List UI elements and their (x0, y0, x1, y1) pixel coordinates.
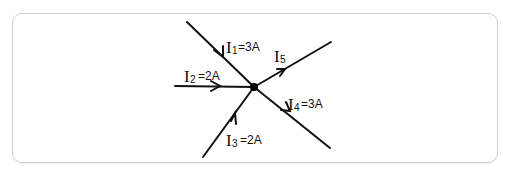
svg-text:=3A: =3A (301, 97, 323, 111)
junction-diagram: I 1 =3A I 2 =2A I 3 =2A I 4 =3A I 5 (0, 0, 511, 174)
svg-text:=2A: =2A (240, 133, 262, 147)
svg-text:2: 2 (190, 74, 196, 85)
svg-text:4: 4 (294, 102, 300, 113)
branch-i2-wire (175, 86, 254, 87)
label-i4: I 4 =3A (288, 95, 323, 114)
svg-text:=2A: =2A (198, 69, 220, 83)
label-i3: I 3 =2A (226, 131, 262, 150)
arrow-i3-icon (231, 113, 236, 124)
svg-text:=3A: =3A (238, 40, 260, 54)
svg-text:3: 3 (232, 138, 238, 149)
junction-node (250, 83, 258, 91)
label-i1: I 1 =3A (226, 38, 260, 57)
label-i5: I 5 (274, 47, 286, 66)
svg-text:5: 5 (280, 54, 286, 65)
branch-i5-wire (254, 42, 331, 87)
